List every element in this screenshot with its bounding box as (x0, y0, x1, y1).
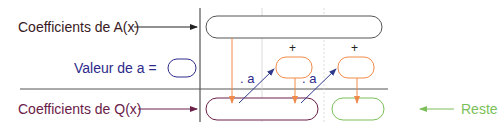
plus-sign-2: + (351, 41, 358, 55)
partial-sum-box-2 (338, 57, 374, 78)
coefficients-q-label: Coefficients de Q(x) (18, 101, 141, 117)
coefficients-a-box (206, 16, 382, 38)
coefficients-q-box (206, 98, 318, 120)
multiply-a-label-1: . a (240, 71, 254, 86)
remainder-box (332, 98, 384, 120)
value-a-label: Valeur de a = (74, 60, 157, 76)
plus-sign-1: + (289, 41, 296, 55)
value-a-box (168, 59, 196, 77)
coefficients-a-label: Coefficients de A(x) (18, 19, 139, 35)
multiply-a-label-2: . a (302, 71, 316, 86)
remainder-label: Reste (461, 101, 498, 117)
